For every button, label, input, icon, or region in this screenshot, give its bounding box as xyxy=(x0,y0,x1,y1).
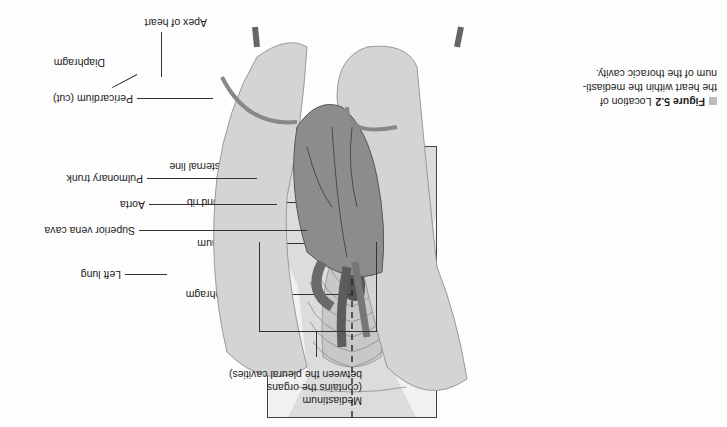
leader-line xyxy=(147,178,257,179)
leader-line xyxy=(161,32,162,77)
textbook-page: Diaphragm Sternum Second rib Midsternal … xyxy=(0,0,727,427)
label-mediastinum: Mediastinum (contains the organs between… xyxy=(229,368,362,407)
leader-line xyxy=(137,98,213,99)
mediastinum-bracket xyxy=(259,331,377,332)
label-pulmonary-trunk: Pulmonary trunk xyxy=(67,173,143,185)
lungs-heart-illustration xyxy=(0,0,727,427)
caption-marker-icon xyxy=(709,97,717,105)
mediastinum-bracket-left xyxy=(376,242,377,332)
leader-line xyxy=(316,332,317,357)
label-pericardium: Pericardium (cut) xyxy=(53,93,133,105)
mediastinum-bracket-right xyxy=(259,242,260,332)
leader-line xyxy=(125,274,167,275)
figure-caption: Figure 5.2Location of the heart within t… xyxy=(547,67,717,109)
label-aorta: Aorta xyxy=(120,199,145,211)
leader-line xyxy=(149,204,277,205)
label-left-lung: Left lung xyxy=(81,269,121,281)
label-apex-of-heart: Apex of heart xyxy=(145,17,207,29)
label-superior-vena-cava: Superior vena cava xyxy=(45,225,135,237)
label-diaphragm: Diaphragm xyxy=(54,57,105,69)
leader-line xyxy=(139,230,307,231)
